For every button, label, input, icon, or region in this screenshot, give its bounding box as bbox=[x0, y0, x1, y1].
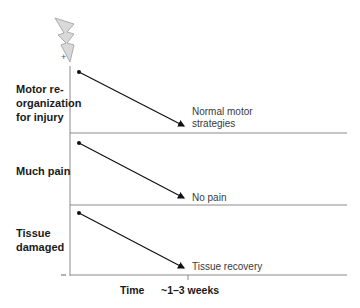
label-line: Tissue bbox=[16, 226, 64, 240]
label-line: Much pain bbox=[16, 164, 70, 178]
label-line: No pain bbox=[192, 192, 226, 204]
label-line: for injury bbox=[16, 110, 81, 124]
label-line: strategies bbox=[192, 118, 253, 130]
panel-1-trend-line bbox=[79, 72, 184, 126]
panel-3-start-label: Tissue damaged bbox=[16, 226, 64, 254]
panel-1-end-label: Normal motor strategies bbox=[192, 106, 253, 130]
panel-3-end-label: Tissue recovery bbox=[192, 261, 262, 273]
panel-2-end-label: No pain bbox=[192, 192, 226, 204]
label-line: damaged bbox=[16, 240, 64, 254]
x-axis-label: Time bbox=[120, 284, 144, 296]
x-tick-label: ~1–3 weeks bbox=[161, 284, 219, 296]
label-line: Normal motor bbox=[192, 106, 253, 118]
positive-sign: + bbox=[61, 52, 66, 62]
panel-2-trend-line bbox=[79, 143, 184, 198]
panel-2-start-label: Much pain bbox=[16, 164, 70, 178]
label-line: organization bbox=[16, 96, 81, 110]
label-line: Tissue recovery bbox=[192, 261, 262, 273]
diagram-canvas bbox=[0, 0, 360, 308]
panel-3-trend-line bbox=[79, 213, 184, 268]
panel-1-start-label: Motor re- organization for injury bbox=[16, 82, 81, 124]
label-line: Motor re- bbox=[16, 82, 81, 96]
